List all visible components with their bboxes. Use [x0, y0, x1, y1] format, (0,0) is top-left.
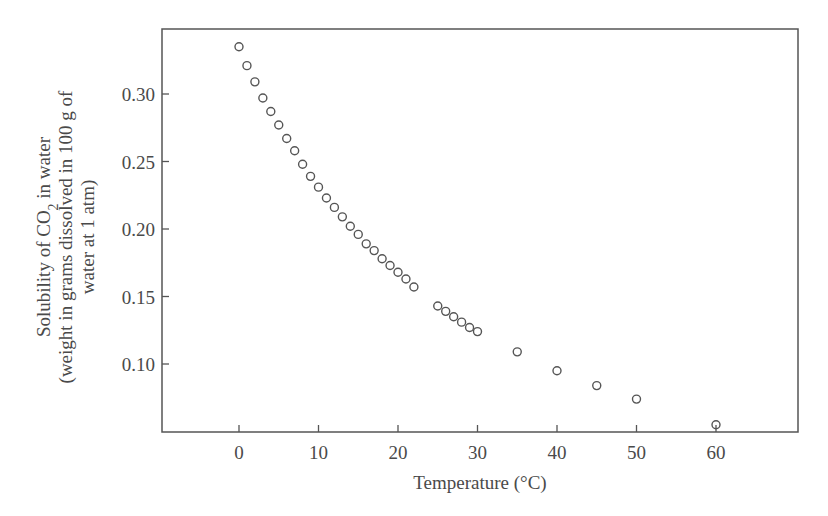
- data-point-marker: [354, 230, 362, 238]
- y-tick-label: 0.20: [122, 219, 155, 240]
- scatter-chart: 0102030405060 0.100.150.200.250.30 Tempe…: [0, 0, 828, 516]
- data-point-marker: [513, 348, 521, 356]
- data-point-marker: [633, 395, 641, 403]
- data-point-marker: [251, 78, 259, 86]
- x-tick-label: 30: [468, 442, 487, 463]
- data-point-marker: [394, 268, 402, 276]
- x-tick-label: 60: [707, 442, 726, 463]
- data-point-marker: [346, 222, 354, 230]
- data-point-marker: [338, 213, 346, 221]
- data-point-marker: [370, 247, 378, 255]
- data-point-marker: [322, 194, 330, 202]
- data-point-marker: [291, 147, 299, 155]
- data-point-marker: [450, 313, 458, 321]
- data-point-marker: [283, 135, 291, 143]
- y-tick-label: 0.10: [122, 354, 155, 375]
- x-axis-ticks: 0102030405060: [234, 425, 725, 463]
- y-tick-label: 0.30: [122, 84, 155, 105]
- data-point-marker: [553, 367, 561, 375]
- y-tick-label: 0.25: [122, 152, 155, 173]
- data-point-marker: [378, 255, 386, 263]
- y-tick-label: 0.15: [122, 287, 155, 308]
- data-point-marker: [458, 318, 466, 326]
- data-point-marker: [307, 172, 315, 180]
- data-point-marker: [593, 382, 601, 390]
- x-tick-label: 40: [548, 442, 567, 463]
- y-axis-label: Solubility of CO2 in water (weight in gr…: [33, 90, 99, 384]
- data-point-marker: [434, 302, 442, 310]
- data-point-marker: [442, 307, 450, 315]
- x-tick-label: 50: [627, 442, 646, 463]
- data-point-marker: [330, 203, 338, 211]
- x-tick-label: 0: [234, 442, 244, 463]
- data-point-marker: [410, 283, 418, 291]
- data-point-marker: [315, 183, 323, 191]
- x-axis-label: Temperature (°C): [413, 472, 546, 494]
- data-point-marker: [386, 261, 394, 269]
- data-point-marker: [267, 108, 275, 116]
- data-point-marker: [299, 160, 307, 168]
- x-tick-label: 20: [389, 442, 408, 463]
- data-point-marker: [362, 240, 370, 248]
- data-point-marker: [243, 62, 251, 70]
- data-points: [235, 43, 720, 429]
- y-axis-label-line3: water at 1 atm): [77, 180, 99, 294]
- plot-frame: [162, 29, 798, 432]
- data-point-marker: [402, 275, 410, 283]
- data-point-marker: [466, 324, 474, 332]
- data-point-marker: [275, 121, 283, 129]
- y-axis-label-line2: (weight in grams dissolved in 100 g of: [55, 90, 77, 384]
- data-point-marker: [474, 328, 482, 336]
- data-point-marker: [235, 43, 243, 51]
- x-tick-label: 10: [309, 442, 328, 463]
- data-point-marker: [259, 94, 267, 102]
